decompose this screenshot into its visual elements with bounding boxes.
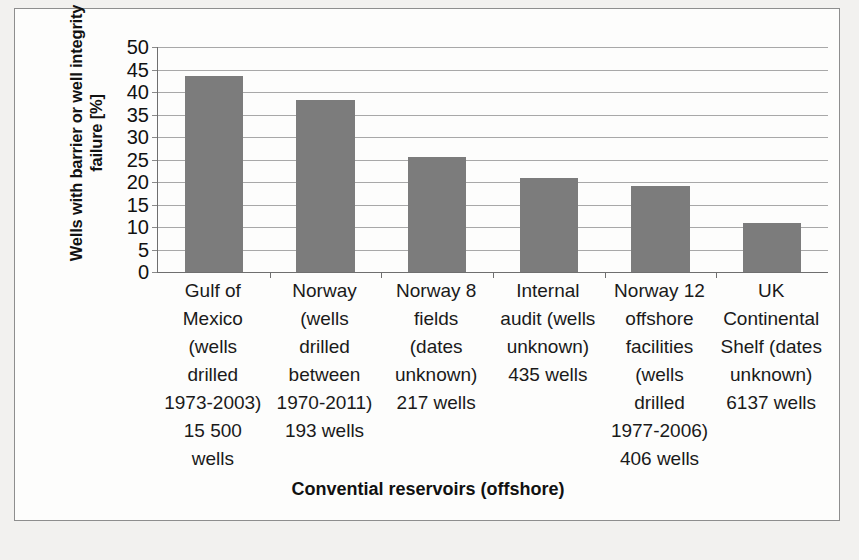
y-axis-tick-labels: 50454035302520151050 <box>107 47 153 272</box>
y-tick-label: 45 <box>127 60 149 80</box>
x-category-label-line: (wells <box>270 305 380 333</box>
bar[interactable] <box>185 76 243 272</box>
x-category-label: UKContinentalShelf (datesunknown)6137 we… <box>715 277 827 473</box>
y-tick-label: 25 <box>127 150 149 170</box>
x-category-label: Internalaudit (wellsunknown)435 wells <box>492 277 604 473</box>
x-category-label-line: offshore <box>605 305 715 333</box>
x-axis-category-labels: Gulf ofMexico(wellsdrilled1973-2003)15 5… <box>157 277 827 473</box>
y-tick-label: 30 <box>127 127 149 147</box>
bar-slot <box>493 47 605 272</box>
y-axis-title: Wells with barrier or well integrity fai… <box>66 0 106 268</box>
plot-area <box>157 47 828 273</box>
x-category-label-line: 6137 wells <box>716 389 826 417</box>
bar-series <box>158 47 828 272</box>
x-axis-title: Convential reservoirs (offshore) <box>15 479 841 500</box>
x-category-label-line: drilled <box>605 389 715 417</box>
bar-slot <box>716 47 828 272</box>
x-category-label: Norway(wellsdrilledbetween1970-2011)193 … <box>269 277 381 473</box>
x-category-label-line: (wells <box>158 333 268 361</box>
x-category-label-line: Gulf of <box>158 277 268 305</box>
bar-slot <box>158 47 270 272</box>
x-category-label-line: wells <box>158 445 268 473</box>
bar-slot <box>381 47 493 272</box>
y-tick-label: 20 <box>127 172 149 192</box>
bar[interactable] <box>631 186 689 272</box>
y-tick-label: 15 <box>127 195 149 215</box>
y-tick-label: 40 <box>127 82 149 102</box>
x-category-label-line: 435 wells <box>493 361 603 389</box>
x-category-label-line: UK <box>716 277 826 305</box>
x-category-label-line: 15 500 <box>158 417 268 445</box>
x-category-label-line: unknown) <box>381 361 491 389</box>
x-category-label-line: 1977-2006) <box>605 417 715 445</box>
x-category-label-line: Norway 8 <box>381 277 491 305</box>
x-category-label-line: drilled <box>270 333 380 361</box>
x-category-label: Norway 12offshorefacilities(wellsdrilled… <box>604 277 716 473</box>
x-category-label: Norway 8fields(datesunknown)217 wells <box>380 277 492 473</box>
bar-slot <box>270 47 382 272</box>
x-category-label: Gulf ofMexico(wellsdrilled1973-2003)15 5… <box>157 277 269 473</box>
x-category-label-line: 1973-2003) <box>158 389 268 417</box>
x-category-label-line: drilled <box>158 361 268 389</box>
bar[interactable] <box>520 178 578 273</box>
plot-area-wrapper: 50454035302520151050 <box>107 47 827 272</box>
y-tick-label: 0 <box>138 262 149 282</box>
x-category-label-line: unknown) <box>716 361 826 389</box>
x-category-label-line: 193 wells <box>270 417 380 445</box>
x-category-label-line: Internal <box>493 277 603 305</box>
x-category-label-line: audit (wells <box>493 305 603 333</box>
bar[interactable] <box>743 223 801 273</box>
x-category-label-line: Continental <box>716 305 826 333</box>
y-tick-label: 10 <box>127 217 149 237</box>
x-category-label-line: (wells <box>605 361 715 389</box>
y-tick-label: 35 <box>127 105 149 125</box>
x-category-label-line: (dates <box>381 333 491 361</box>
x-category-label-line: Mexico <box>158 305 268 333</box>
chart-container: Wells with barrier or well integrity fai… <box>14 8 840 521</box>
x-category-label-line: 217 wells <box>381 389 491 417</box>
x-category-label-line: unknown) <box>493 333 603 361</box>
x-category-label-line: Norway 12 <box>605 277 715 305</box>
x-category-label-line: Shelf (dates <box>716 333 826 361</box>
x-category-label-line: between <box>270 361 380 389</box>
bar-slot <box>605 47 717 272</box>
y-tick-label: 5 <box>138 240 149 260</box>
x-category-label-line: facilities <box>605 333 715 361</box>
x-category-label-line: Norway <box>270 277 380 305</box>
bar[interactable] <box>408 157 466 272</box>
x-category-label-line: 1970-2011) <box>270 389 380 417</box>
bar[interactable] <box>296 100 354 272</box>
y-tick-label: 50 <box>127 37 149 57</box>
x-category-label-line: fields <box>381 305 491 333</box>
x-category-label-line: 406 wells <box>605 445 715 473</box>
